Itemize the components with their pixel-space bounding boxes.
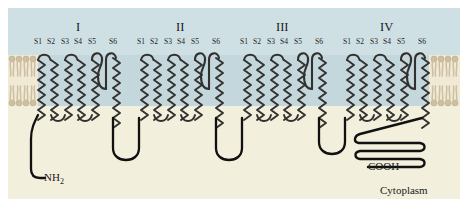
helix-I-S3 (65, 60, 72, 120)
helix-III-S3 (271, 60, 278, 120)
segment-label-IV-S2: S2 (356, 37, 364, 46)
segment-label-I-S5: S5 (88, 37, 96, 46)
segment-label-III-S3: S3 (267, 37, 275, 46)
diagram-plate: I II III IV S1 S2 S3 S4 S5 S6 S1 S2 S3 S… (8, 8, 460, 199)
segment-label-II-S4: S4 (177, 37, 185, 46)
domain-label-II: II (176, 20, 184, 35)
segment-label-II-S2: S2 (150, 37, 158, 46)
segment-label-I-S1: S1 (34, 37, 42, 46)
helix-I-S4 (78, 60, 85, 120)
domain-IV (347, 53, 429, 128)
helix-II-S1 (141, 60, 148, 120)
domain-label-I: I (76, 20, 80, 35)
lipid-bilayer-right (429, 55, 460, 106)
segment-label-IV-S6: S6 (418, 37, 426, 46)
segment-label-III-S5: S5 (294, 37, 302, 46)
cytoplasm-label: Cytoplasm (380, 184, 428, 196)
segment-label-IV-S3: S3 (370, 37, 378, 46)
loop-IV-S1-S2 (347, 55, 360, 60)
segment-label-II-S5: S5 (191, 37, 199, 46)
segment-label-I-S6: S6 (109, 37, 117, 46)
segment-label-I-S3: S3 (61, 37, 69, 46)
helix-III-S2 (257, 60, 264, 120)
segment-label-I-S2: S2 (47, 37, 55, 46)
figure-root: I II III IV S1 S2 S3 S4 S5 S6 S1 S2 S3 S… (0, 0, 468, 207)
helix-IV-S3 (374, 60, 381, 120)
segment-label-III-S2: S2 (253, 37, 261, 46)
helix-I-S2 (51, 60, 58, 120)
helix-III-S6 (319, 58, 326, 128)
segment-label-IV-S1: S1 (343, 37, 351, 46)
helix-III-S4 (284, 60, 291, 120)
domain-label-III: III (276, 20, 289, 35)
helix-II-S5 (195, 60, 202, 120)
helix-IV-S5 (401, 60, 408, 120)
helix-II-S2 (154, 60, 161, 120)
domain-I (31, 53, 139, 178)
n-terminus-text: NH (44, 171, 60, 183)
segment-label-III-S6: S6 (315, 37, 323, 46)
loop-I-S1-S2 (38, 55, 51, 60)
helix-I-S6 (113, 58, 120, 128)
n-terminus-tail (31, 115, 45, 178)
segment-label-II-S3: S3 (164, 37, 172, 46)
segment-label-II-S6: S6 (212, 37, 220, 46)
segment-label-I-S4: S4 (74, 37, 82, 46)
helix-III-S1 (244, 60, 251, 120)
segment-label-III-S1: S1 (240, 37, 248, 46)
helix-I-S1 (38, 60, 45, 120)
segment-label-II-S1: S1 (137, 37, 145, 46)
helix-II-S3 (168, 60, 175, 120)
helix-IV-S2 (360, 60, 367, 120)
domain-label-IV: IV (380, 20, 393, 35)
helix-I-S5 (92, 60, 99, 120)
loop-II-S3-S4 (168, 55, 181, 60)
loop-IV-S3-S4 (374, 55, 387, 60)
loop-II-S1-S2 (141, 55, 154, 60)
loop-III-S3-S4 (271, 55, 284, 60)
n-terminus-subscript: 2 (60, 177, 64, 186)
segment-label-III-S4: S4 (280, 37, 288, 46)
lipid-bilayer-left (8, 55, 38, 106)
loop-I-S3-S4 (65, 55, 78, 60)
segment-label-IV-S4: S4 (383, 37, 391, 46)
helix-IV-S1 (347, 60, 354, 120)
domain-II (141, 53, 242, 160)
c-terminus-label: COOH (368, 160, 399, 172)
domain-III (244, 53, 345, 154)
helix-IV-S4 (387, 60, 394, 120)
loop-III-S1-S2 (244, 55, 257, 60)
helix-III-S5 (298, 60, 305, 120)
n-terminus-label: NH2 (44, 171, 64, 186)
helix-II-S6 (216, 58, 223, 128)
linker-III-IV (319, 118, 345, 154)
helix-II-S4 (181, 60, 188, 120)
segment-label-IV-S5: S5 (397, 37, 405, 46)
